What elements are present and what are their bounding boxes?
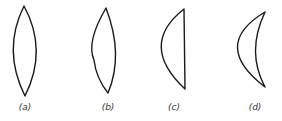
lens-d-meniscus	[238, 12, 266, 87]
label-c: (c)	[159, 102, 189, 112]
lens-b-asymmetric-biconvex	[92, 8, 116, 93]
label-b: (b)	[93, 102, 123, 112]
lens-c-plano-convex	[161, 9, 185, 89]
lens-a-biconvex	[13, 6, 36, 96]
label-a: (a)	[10, 102, 40, 112]
label-d: (d)	[240, 102, 270, 112]
